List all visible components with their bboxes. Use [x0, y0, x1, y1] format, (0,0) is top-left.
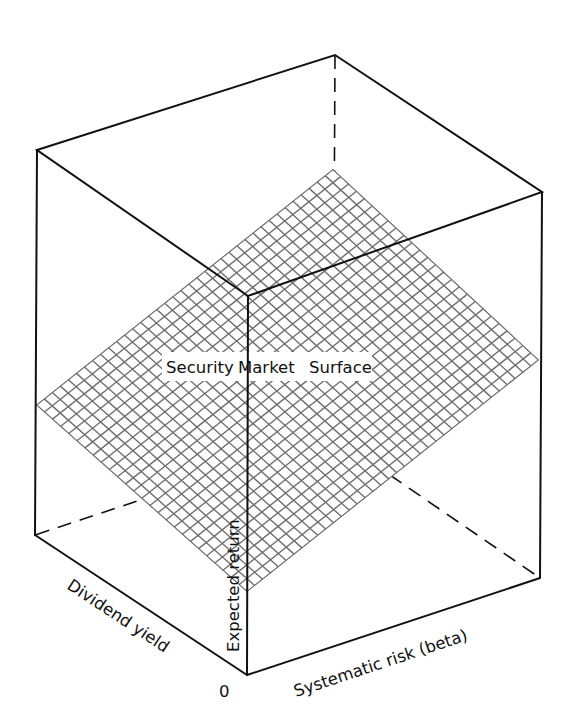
axis-label-systematic-risk: Systematic risk (beta) [291, 626, 470, 701]
diagram-canvas: Security Market Surface Expected return … [0, 0, 570, 726]
security-market-surface-diagram: Security Market Surface Expected return … [0, 0, 570, 726]
surface-label-security: Security [166, 358, 234, 377]
surface-label-market: Market [238, 358, 295, 377]
origin-label: 0 [219, 682, 230, 701]
surface-label-surface: Surface [309, 358, 372, 377]
axis-label-expected-return: Expected return [224, 519, 243, 652]
